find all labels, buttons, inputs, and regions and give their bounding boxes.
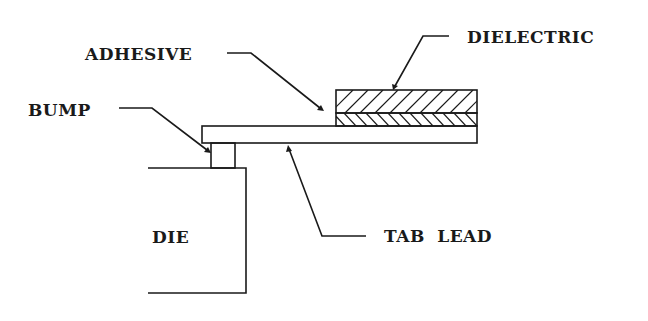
leader-bump <box>119 108 211 153</box>
leader-tab-lead <box>286 145 366 236</box>
dielectric-layer <box>330 90 488 113</box>
tab-bonding-diagram: DIELECTRIC ADHESIVE BUMP DIE TAB LEAD <box>0 0 648 321</box>
label-tab-lead: TAB LEAD <box>384 226 492 246</box>
label-dielectric: DIELECTRIC <box>467 27 594 47</box>
label-adhesive: ADHESIVE <box>84 44 192 64</box>
adhesive-layer <box>333 113 477 126</box>
leader-dielectric <box>392 36 449 90</box>
leader-adhesive <box>227 53 324 111</box>
label-bump: BUMP <box>28 100 91 120</box>
tab-lead <box>202 126 477 143</box>
bump <box>211 143 235 168</box>
label-die: DIE <box>152 227 189 247</box>
